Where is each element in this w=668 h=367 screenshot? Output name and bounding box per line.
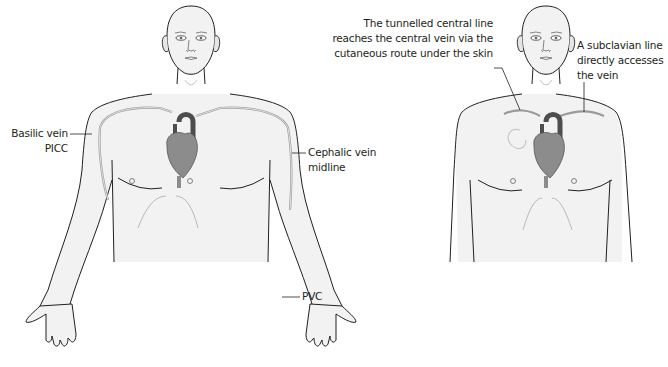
label-line: Cephalic vein [308,145,376,160]
cephalic-vein-label: Cephalic vein midline [308,145,376,175]
pvc-label: PVC [302,289,322,304]
label-line: The tunnelled central line [300,16,493,31]
label-line: reaches the central vein via the [300,31,493,46]
label-line: PICC [4,141,68,156]
label-line: cutaneous route under the skin [300,46,493,61]
basilic-vein-label: Basilic vein PICC [4,126,68,156]
label-line: Basilic vein [4,126,68,141]
label-line: midline [308,160,376,175]
subclavian-line-label: A subclavian line directly accesses the … [577,38,663,83]
tunnelled-line-label: The tunnelled central line reaches the c… [300,16,493,61]
label-line: PVC [302,289,322,304]
label-line: directly accesses [577,53,663,68]
label-line: the vein [577,68,663,83]
label-line: A subclavian line [577,38,663,53]
